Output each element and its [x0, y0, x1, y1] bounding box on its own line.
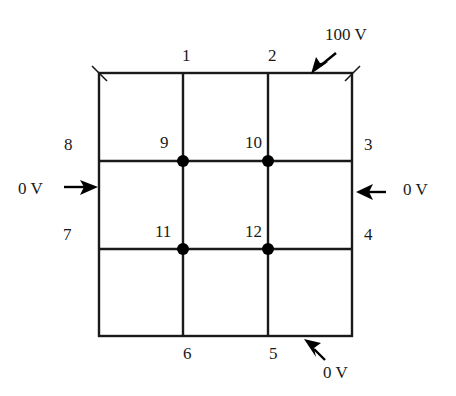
node-label-7: 7	[63, 226, 72, 243]
node-label-11: 11	[155, 223, 171, 240]
node-label-2: 2	[268, 47, 277, 64]
node-label-10: 10	[245, 134, 262, 151]
potential-right-label: 0 V	[403, 181, 428, 198]
arrow-left-icon	[64, 180, 98, 195]
node-12-dot	[262, 243, 274, 255]
node-label-4: 4	[364, 226, 373, 243]
node-label-12: 12	[245, 223, 262, 240]
arrow-top-icon	[311, 53, 336, 74]
grid-lines	[99, 73, 352, 336]
potential-top-label: 100 V	[325, 26, 367, 43]
grid-svg	[0, 0, 456, 396]
potential-left-label: 0 V	[18, 180, 43, 197]
node-label-6: 6	[183, 345, 192, 362]
potential-bottom-label: 0 V	[323, 364, 348, 381]
node-label-1: 1	[182, 47, 191, 64]
node-label-5: 5	[269, 345, 278, 362]
arrow-right-icon	[356, 184, 386, 200]
outer-boundary	[99, 73, 352, 336]
node-10-dot	[262, 155, 274, 167]
node-label-8: 8	[64, 136, 73, 153]
node-9-dot	[177, 155, 189, 167]
arrows	[64, 53, 386, 360]
node-label-9: 9	[160, 134, 169, 151]
node-label-3: 3	[364, 136, 373, 153]
potential-grid-diagram: 1 2 3 4 5 6 7 8 9 10 11 12 100 V 0 V 0 V…	[0, 0, 456, 396]
arrow-bottom-icon	[304, 339, 325, 360]
node-11-dot	[177, 243, 189, 255]
